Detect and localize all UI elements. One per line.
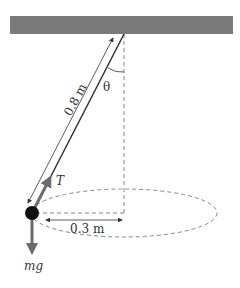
weight-label: mg [24, 260, 43, 272]
tension-label: T [56, 175, 64, 187]
length-dimension [28, 38, 113, 203]
bob [25, 206, 39, 220]
angle-label: θ [103, 81, 110, 93]
conical-pendulum-diagram [0, 0, 240, 288]
angle-arc [108, 68, 124, 72]
radius-label: 0.3 m [70, 223, 104, 235]
ceiling [10, 16, 233, 34]
